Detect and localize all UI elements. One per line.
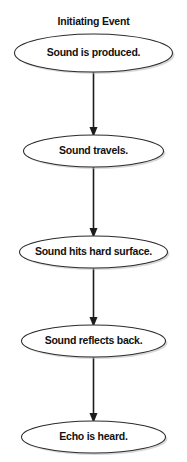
node-sound-hits-hard-surface[interactable]: Sound hits hard surface. (20, 236, 170, 270)
connector-3 (90, 267, 98, 327)
echo-process-flowchart: Initiating Event Sound is produced. (0, 0, 187, 462)
flowchart-canvas: Initiating Event Sound is produced. (0, 0, 187, 462)
node-1-label: Sound is produced. (47, 46, 141, 58)
node-5-label: Echo is heard. (59, 430, 128, 442)
connector-4 (90, 356, 98, 423)
node-3-label: Sound hits hard surface. (35, 245, 152, 257)
node-sound-reflects-back[interactable]: Sound reflects back. (22, 325, 168, 359)
node-4-label: Sound reflects back. (45, 334, 143, 346)
node-sound-is-produced[interactable]: Sound is produced. (15, 34, 175, 74)
diagram-title: Initiating Event (57, 15, 130, 27)
connector-1 (90, 70, 98, 137)
node-2-label: Sound travels. (59, 144, 128, 156)
node-echo-is-heard[interactable]: Echo is heard. (22, 421, 168, 455)
node-sound-travels[interactable]: Sound travels. (24, 135, 166, 169)
connector-2 (90, 162, 98, 238)
